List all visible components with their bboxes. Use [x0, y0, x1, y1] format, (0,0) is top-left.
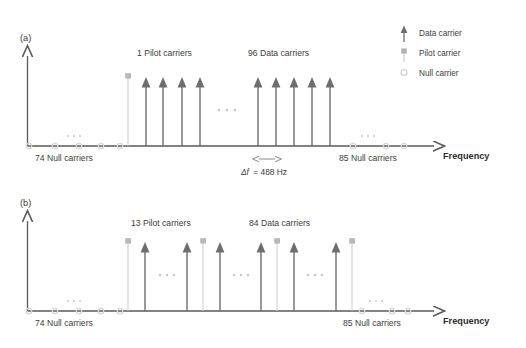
panel-b-pilot-label: 13 Pilot carriers: [131, 218, 191, 228]
panel-a-right-null-label: 85 Null carriers: [339, 153, 397, 163]
ofdm-subcarrier-figure: Data carrier Pilot carrier Null carrier …: [0, 0, 526, 348]
panel-a-axis-label: Frequency: [443, 151, 490, 161]
panel-a-data-label: 96 Data carriers: [248, 48, 309, 58]
legend-label-pilot-carrier: Pilot carrier: [419, 49, 461, 58]
panel-b-data-label: 84 Data carriers: [249, 218, 310, 228]
legend-label-null-carrier: Null carrier: [419, 69, 459, 78]
panel-b-left-null-label: 74 Null carriers: [35, 318, 93, 328]
panel-a-pilot-label: 1 Pilot carriers: [137, 48, 192, 58]
figure-canvas: Data carrier Pilot carrier Null carrier …: [0, 0, 526, 348]
panel-b-right-null-label: 85 Null carriers: [343, 318, 401, 328]
delta-f-value: 488 Hz: [261, 167, 288, 177]
panel-b-tag: (b): [20, 198, 31, 208]
panel-a-spacing-label: Δf = 488 Hz: [240, 167, 287, 177]
panel-a-left-null-label: 74 Null carriers: [35, 153, 93, 163]
legend-label-data-carrier: Data carrier: [419, 29, 462, 38]
panel-a-tag: (a): [20, 33, 31, 43]
panel-b-axis-label: Frequency: [443, 316, 490, 326]
